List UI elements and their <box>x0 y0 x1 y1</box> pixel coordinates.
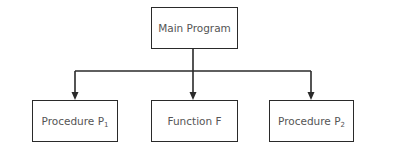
procedure-p1-node: Procedure P1 <box>32 100 118 142</box>
arrow-to-procedure-p1 <box>72 71 79 100</box>
function-f-label: Function F <box>167 115 221 127</box>
procedure-p1-label: Procedure P1 <box>42 115 109 127</box>
main-program-label: Main Program <box>158 22 231 34</box>
arrow-to-function-f <box>190 71 197 100</box>
arrow-to-procedure-p2 <box>308 71 315 100</box>
procedure-p2-label: Procedure P2 <box>278 115 345 127</box>
procedure-p2-node: Procedure P2 <box>269 100 354 142</box>
function-f-node: Function F <box>151 100 238 142</box>
program-structure-diagram: Main Program Procedure P1 Function F Pro… <box>0 0 413 148</box>
main-program-node: Main Program <box>151 7 238 49</box>
